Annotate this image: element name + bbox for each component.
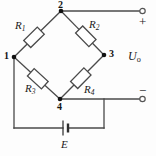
resistor-label-r1-sub: 1 <box>22 24 26 33</box>
circuit-diagram: R1 R2 R3 R4 2 1 3 4 E Uo + − <box>0 0 156 156</box>
junction-dot-n1 <box>12 55 17 60</box>
output-voltage-name: U <box>128 49 137 63</box>
wire-r3-n4 <box>44 84 60 99</box>
wire-r2-n3 <box>92 43 104 55</box>
node-label-2: 2 <box>58 0 63 10</box>
resistor-label-r4-name: R <box>84 83 91 95</box>
battery-symbol <box>63 121 68 136</box>
resistor-label-r2: R2 <box>89 19 99 31</box>
resistor-label-r1-name: R <box>15 19 22 31</box>
wire-r1-n1 <box>14 44 28 57</box>
wire-r4-n4 <box>60 85 75 100</box>
resistor-label-r4-sub: 4 <box>91 88 95 97</box>
resistor-label-r3-sub: 3 <box>32 87 36 96</box>
resistor-label-r2-sub: 2 <box>96 23 100 32</box>
polarity-minus-sign: − <box>139 84 146 97</box>
node-label-4: 4 <box>57 102 62 112</box>
resistor-label-r3: R3 <box>25 83 35 95</box>
node-label-1: 1 <box>4 51 9 61</box>
wire-n3-r4 <box>87 55 104 72</box>
source-label-e: E <box>61 139 68 150</box>
junction-dot-n3 <box>102 53 107 58</box>
wire-n2-r2 <box>61 11 80 30</box>
resistor-label-r1: R1 <box>15 20 25 32</box>
resistor-label-r2-name: R <box>89 18 96 30</box>
resistor-body-r1 <box>24 27 45 47</box>
wire-n1-r3 <box>14 57 32 73</box>
terminal-positive[interactable] <box>140 8 145 13</box>
wire-n2-r1 <box>41 11 62 31</box>
node-label-3: 3 <box>109 49 114 59</box>
resistor-label-r3-name: R <box>25 82 32 94</box>
output-voltage-sub: o <box>137 55 141 64</box>
resistor-label-r4: R4 <box>84 84 94 96</box>
output-voltage-label: Uo <box>128 50 141 64</box>
polarity-plus-sign: + <box>139 15 146 28</box>
